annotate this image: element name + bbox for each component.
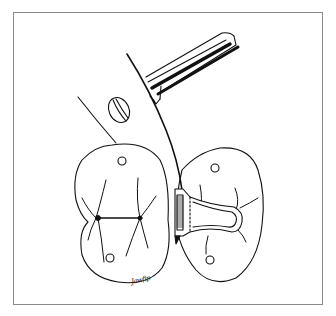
fissure-lines: [82, 178, 156, 262]
blade-left-edge: [78, 97, 116, 143]
contact-marker: [106, 254, 114, 262]
contact-marker: [206, 256, 214, 264]
instrument-handle-icon: [146, 33, 238, 104]
matrix-retainer: [175, 189, 242, 244]
oval-screw-icon: [104, 94, 133, 126]
illustration-canvas: Jawfip: [0, 0, 336, 316]
dental-illustration: [0, 0, 336, 316]
contact-marker: [118, 157, 126, 165]
contact-marker: [211, 164, 219, 172]
